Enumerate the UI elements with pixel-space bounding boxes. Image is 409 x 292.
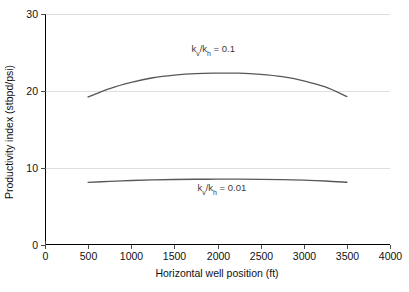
y-tick-label-20: 20 bbox=[26, 85, 38, 97]
x-tick-label-4000: 4000 bbox=[379, 250, 403, 262]
productivity-index-line-chart: 05001000150020002500300035004000 0102030… bbox=[0, 0, 409, 292]
chart-container: 05001000150020002500300035004000 0102030… bbox=[0, 0, 409, 292]
x-tick-label-1000: 1000 bbox=[120, 250, 144, 262]
x-tick-label-500: 500 bbox=[80, 250, 98, 262]
x-axis-tick-labels: 05001000150020002500300035004000 bbox=[43, 250, 403, 262]
x-axis-title: Horizontal well position (ft) bbox=[155, 267, 278, 279]
x-tick-label-2500: 2500 bbox=[250, 250, 274, 262]
y-tick-label-30: 30 bbox=[26, 8, 38, 20]
x-tick-label-1500: 1500 bbox=[163, 250, 187, 262]
x-tick-label-3500: 3500 bbox=[336, 250, 360, 262]
y-axis-title: Productivity index (stbpd/psi) bbox=[3, 65, 15, 199]
x-tick-label-3000: 3000 bbox=[293, 250, 317, 262]
x-tick-label-2000: 2000 bbox=[207, 250, 231, 262]
y-tick-label-10: 10 bbox=[26, 162, 38, 174]
x-tick-label-0: 0 bbox=[43, 250, 49, 262]
y-tick-label-0: 0 bbox=[32, 239, 38, 251]
